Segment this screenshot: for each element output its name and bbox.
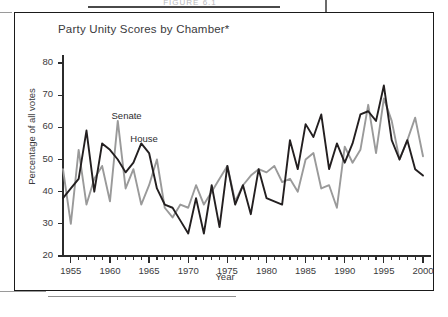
y-tick-label: 60: [29, 120, 53, 131]
x-tick-label: 1980: [249, 265, 283, 276]
x-tick-label: 1995: [367, 265, 401, 276]
x-tick-label: 1970: [171, 265, 205, 276]
plot-area: Percentage of all votes Year 20304050607…: [15, 13, 435, 292]
x-tick-label: 1985: [289, 265, 323, 276]
x-tick-label: 1990: [328, 265, 362, 276]
y-tick-label: 50: [29, 153, 53, 164]
x-tick-label: 1975: [210, 265, 244, 276]
below-figure-rule: [48, 296, 236, 297]
y-tick-label: 40: [29, 185, 53, 196]
page-root: FIGURE 6.1 Party Unity Scores by Chamber…: [0, 0, 448, 317]
x-tick-label: 1965: [132, 265, 166, 276]
left-edge-rule-top: [0, 12, 12, 13]
series-layer: [63, 86, 423, 234]
y-tick-label: 30: [29, 217, 53, 228]
y-tick-label: 20: [29, 249, 53, 260]
chart-svg: [15, 13, 435, 292]
x-tick-label: 1955: [54, 265, 88, 276]
x-tick-label: 1960: [93, 265, 127, 276]
figure-container: Party Unity Scores by Chamber* Percentag…: [14, 12, 434, 291]
y-tick-label: 80: [29, 56, 53, 67]
series-label-senate: Senate: [112, 110, 142, 121]
x-tick-label: 2000: [406, 265, 440, 276]
series-label-house: House: [130, 133, 157, 144]
top-divider-rule: [88, 6, 280, 8]
y-tick-label: 70: [29, 88, 53, 99]
